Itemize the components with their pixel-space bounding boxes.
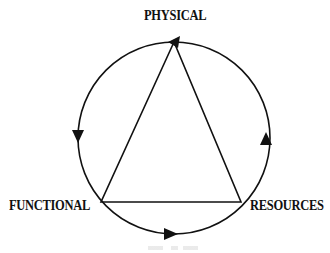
figure-caption-illegible: [148, 246, 198, 250]
arrow-left-icon: [168, 36, 180, 48]
arrow-right-icon: [164, 228, 178, 240]
arrow-down-icon: [72, 130, 84, 143]
triangle: [101, 42, 241, 202]
cycle-circle: [78, 42, 270, 234]
cycle-diagram: [0, 0, 330, 253]
